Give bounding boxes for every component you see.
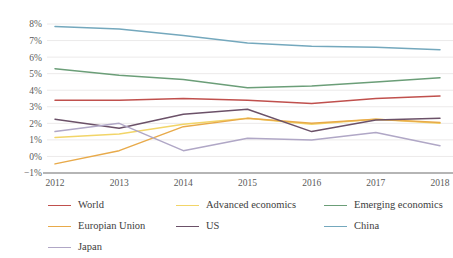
y-tick-label: 1% [29,135,42,145]
series-lines [55,26,440,163]
y-tick-label: 5% [29,69,42,79]
x-tick-label: 2018 [431,178,450,188]
legend-item-world[interactable]: World [48,200,176,211]
y-tick-label: 0% [29,152,42,162]
legend-label-europian-union: Europian Union [78,221,145,232]
y-tick-label: 3% [29,102,42,112]
chart-canvas: 8%7%6%5%4%3%2%1%0%−1% 201220132014201520… [0,0,453,195]
legend-row: Japan [48,237,445,258]
legend-label-emerging-economics: Emerging economics [354,200,443,211]
y-tick-label: 4% [29,86,42,96]
y-tick-label: −1% [24,168,42,178]
x-tick-label: 2017 [366,178,385,188]
legend-label-world: World [78,200,104,211]
legend-row: Europian Union US China [48,216,445,237]
growth-rate-line-chart: 8%7%6%5%4%3%2%1%0%−1% 201220132014201520… [0,0,453,258]
plot-area: 8%7%6%5%4%3%2%1%0%−1% 201220132014201520… [0,0,453,195]
legend-item-emerging-economics[interactable]: Emerging economics [324,200,443,211]
y-tick-label: 7% [29,36,42,46]
series-line-world [55,96,440,103]
legend-row: World Advanced economics Emerging econom… [48,195,445,216]
y-tick-label: 6% [29,53,42,63]
x-tick-label: 2015 [238,178,257,188]
x-tick-label: 2013 [110,178,129,188]
series-line-emerging-economics [55,69,440,88]
legend-label-us: US [206,221,219,232]
legend-label-china: China [354,221,379,232]
legend-item-us[interactable]: US [176,221,324,232]
x-tick-label: 2012 [46,178,65,188]
legend-swatch-world [48,205,71,206]
y-axis-tick-labels: 8%7%6%5%4%3%2%1%0%−1% [24,19,42,178]
x-tick-label: 2014 [174,178,193,188]
y-tick-label: 2% [29,119,42,129]
chart-legend: World Advanced economics Emerging econom… [0,193,453,258]
legend-item-china[interactable]: China [324,221,379,232]
legend-label-advanced-economics: Advanced economics [206,200,296,211]
legend-swatch-advanced-economics [176,205,199,206]
legend-swatch-us [176,226,199,227]
series-line-us [55,109,440,131]
y-tick-label: 8% [29,19,42,29]
legend-swatch-japan [48,247,71,248]
legend-item-advanced-economics[interactable]: Advanced economics [176,200,324,211]
legend-swatch-emerging-economics [324,205,347,206]
x-axis-tick-labels: 2012201320142015201620172018 [46,178,450,188]
legend-item-japan[interactable]: Japan [48,242,176,253]
series-line-europian-union [55,118,440,164]
legend-item-europian-union[interactable]: Europian Union [48,221,176,232]
legend-swatch-china [324,226,347,227]
x-tick-label: 2016 [302,178,321,188]
legend-label-japan: Japan [78,242,102,253]
series-line-china [55,26,440,49]
legend-swatch-europian-union [48,226,71,227]
